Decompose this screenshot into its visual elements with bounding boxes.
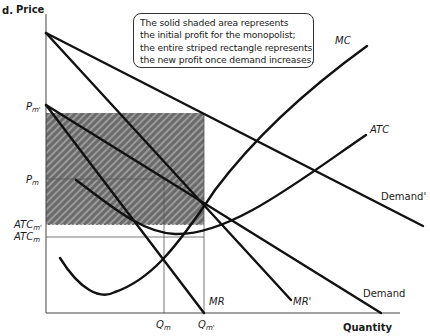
qm-prime-tick: Qm' <box>198 319 215 332</box>
demand-prime-label: Demand' <box>381 191 426 202</box>
atc-m-tick: ATCm <box>13 231 40 244</box>
annotation-line: the entire striped rectangle represents <box>140 42 313 54</box>
annotation-line: The solid shaded area represents <box>140 17 313 29</box>
mr-label: MR <box>209 296 225 307</box>
annotation-line: the new profit once demand increases. <box>140 54 313 66</box>
qm-tick: Qm <box>156 319 171 332</box>
y-axis-label: Price <box>16 4 45 15</box>
annotation-box: The solid shaded area represents the ini… <box>133 13 314 68</box>
annotation-line: the initial profit for the monopolist; <box>140 29 313 41</box>
mr-prime-label: MR' <box>293 296 311 307</box>
panel-label: d. <box>2 5 13 16</box>
atc-label: ATC <box>369 124 389 135</box>
pm-tick: Pm <box>26 174 39 187</box>
x-axis-label: Quantity <box>343 322 392 333</box>
mc-label: MC <box>335 35 351 46</box>
demand-label: Demand <box>363 288 405 299</box>
pm-prime-tick: Pm' <box>26 101 41 114</box>
